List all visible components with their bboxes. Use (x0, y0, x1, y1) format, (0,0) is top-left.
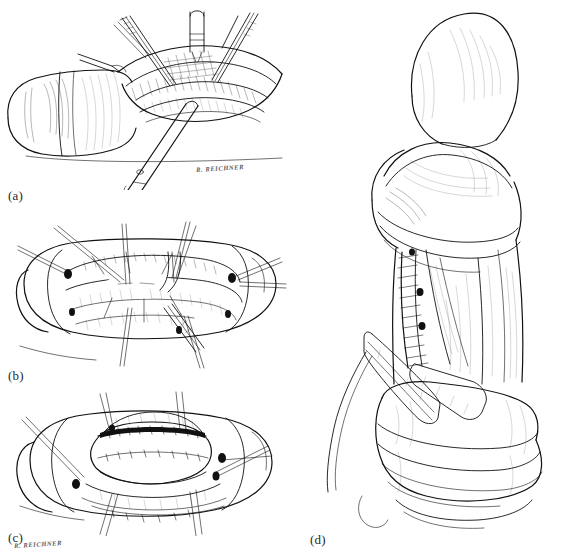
panel-label-b: (b) (8, 368, 24, 384)
panel-b: R. REICHNER (0, 212, 300, 370)
panel-label-d: (d) (310, 532, 326, 548)
panel-a: R. REICHNER (0, 0, 300, 190)
panel-label-a: (a) (8, 188, 23, 204)
panel-d: RBR (300, 0, 567, 540)
panel-c-artwork (0, 388, 300, 536)
panel-a-artwork (0, 0, 300, 190)
panel-d-artwork (300, 0, 567, 540)
panel-b-artwork (0, 212, 300, 370)
panel-label-c: (c) (8, 530, 23, 546)
panel-c: R. REICHNER (0, 388, 300, 536)
figure-plate: R. REICHNER (a) (0, 0, 567, 559)
